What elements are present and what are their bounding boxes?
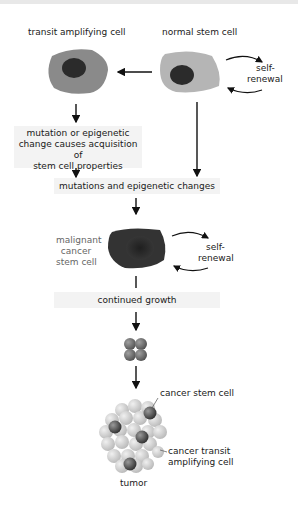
- self-renewal-malignant-top: [172, 232, 208, 238]
- self-renewal-malignant-bottom: [174, 266, 208, 271]
- self-renewal-arrow-top: [226, 56, 262, 62]
- diagram-graphics: [0, 0, 298, 507]
- normal-stem-cell-icon: [160, 51, 220, 92]
- small-cluster-icon: [124, 338, 147, 361]
- tumor-icon: [99, 399, 167, 473]
- pointer-cancer-stem-cell: [152, 398, 158, 408]
- transit-amplifying-cell-icon: [48, 49, 108, 94]
- self-renewal-arrow-bottom: [228, 88, 262, 93]
- malignant-cancer-stem-cell-icon: [108, 228, 165, 268]
